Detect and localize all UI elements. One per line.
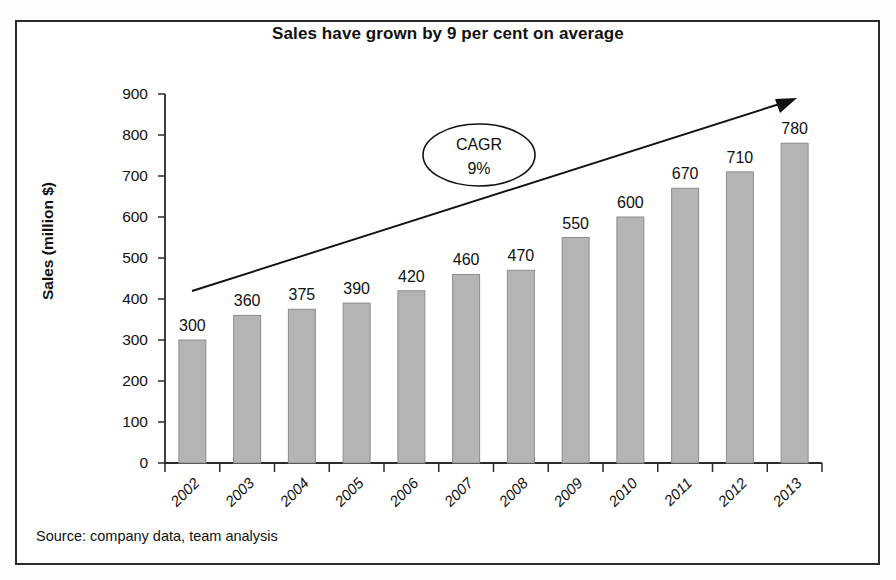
- bar-value-label: 420: [398, 268, 425, 285]
- bar: [343, 303, 370, 463]
- bar-value-label: 460: [453, 251, 480, 268]
- y-tick-label: 300: [122, 331, 148, 348]
- bar: [507, 270, 534, 463]
- bar-value-label: 360: [234, 292, 261, 309]
- x-tick-label: 2010: [604, 474, 641, 511]
- svg-text:CAGR: CAGR: [456, 136, 502, 153]
- x-tick-label: 2011: [660, 474, 696, 510]
- chart-plot-area: 0100200300400500600700800900 30036037539…: [0, 0, 896, 580]
- x-tick-label: 2003: [221, 474, 258, 511]
- bar: [781, 143, 808, 463]
- x-tick-label: 2012: [714, 474, 751, 511]
- bar: [672, 188, 699, 463]
- bar-series: [179, 143, 808, 463]
- x-tick-label: 2009: [549, 474, 586, 511]
- y-axis-tick-labels: 0100200300400500600700800900: [122, 85, 148, 471]
- bar-value-label: 670: [672, 165, 699, 182]
- bar: [453, 274, 480, 463]
- y-tick-label: 200: [122, 372, 148, 389]
- y-tick-label: 600: [122, 208, 148, 225]
- svg-text:9%: 9%: [467, 160, 490, 177]
- chart-figure: Sales have grown by 9 per cent on averag…: [0, 0, 896, 580]
- x-tick-label: 2008: [495, 474, 532, 511]
- x-axis-tick-marks: [165, 463, 822, 472]
- x-axis-tick-labels: 2002200320042005200620072008200920102011…: [166, 474, 805, 511]
- bar: [726, 172, 753, 463]
- cagr-callout: CAGR 9%: [423, 124, 535, 186]
- x-tick-label: 2004: [276, 474, 312, 510]
- bar: [562, 238, 589, 464]
- y-tick-label: 900: [122, 85, 148, 102]
- x-tick-label: 2002: [166, 474, 203, 511]
- bar-value-label: 300: [179, 317, 206, 334]
- y-tick-label: 400: [122, 290, 148, 307]
- y-tick-label: 500: [122, 249, 148, 266]
- bar-value-label: 600: [617, 194, 644, 211]
- bar-value-label: 390: [343, 280, 370, 297]
- y-tick-label: 100: [122, 413, 148, 430]
- bar-value-label: 470: [508, 247, 535, 264]
- y-tick-label: 700: [122, 167, 148, 184]
- growth-trend-arrow: [192, 98, 797, 291]
- bar: [288, 309, 315, 463]
- bar-value-label: 710: [727, 149, 754, 166]
- x-tick-label: 2006: [385, 474, 422, 511]
- x-tick-label: 2013: [768, 474, 805, 511]
- y-axis-tick-marks: [158, 94, 165, 463]
- bar: [617, 217, 644, 463]
- bar-value-label: 550: [562, 215, 589, 232]
- bar-value-label: 780: [781, 120, 808, 137]
- y-tick-label: 0: [139, 454, 148, 471]
- bar-value-label: 375: [289, 286, 316, 303]
- x-tick-label: 2005: [330, 474, 367, 511]
- y-tick-label: 800: [122, 126, 148, 143]
- x-tick-label: 2007: [440, 474, 477, 511]
- source-note: Source: company data, team analysis: [36, 528, 278, 544]
- bar: [179, 340, 206, 463]
- bar: [398, 291, 425, 463]
- bar: [234, 315, 261, 463]
